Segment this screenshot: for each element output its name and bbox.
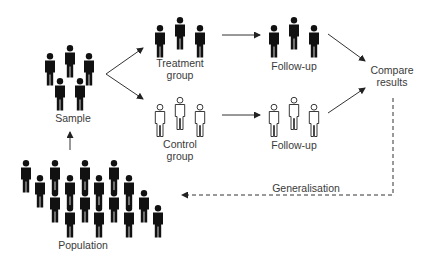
person-icon [309,25,319,58]
person-icon [80,190,90,223]
generalisation-label: Generalisation [272,182,340,194]
followup-treatment-figures [269,17,319,58]
person-icon [75,78,85,111]
person-icon [65,205,75,238]
person-outline-icon [155,104,164,136]
followup-control-figures [269,97,318,136]
treatment-figures [155,17,205,58]
person-outline-icon [289,97,298,129]
person-icon [45,53,55,86]
person-icon [124,205,134,238]
person-icon [35,175,45,208]
person-icon [65,45,75,78]
followup-treatment-label: Follow-up [271,60,317,72]
person-icon [55,78,65,111]
person-icon [50,160,60,193]
control-group-label-line1: Control [163,138,197,150]
person-icon [139,190,149,223]
arrow-followup-treatment-to-compare [328,34,365,61]
person-icon [94,205,104,238]
person-icon [109,160,119,193]
person-outline-icon [269,104,278,136]
control-figures [155,97,204,136]
person-icon [21,160,31,193]
person-outline-icon [175,97,184,129]
arrow-sample-to-control [106,74,143,99]
compare-results-label-line2: results [377,76,408,88]
treatment-group-label-line1: Treatment [156,57,203,69]
person-icon [80,160,90,193]
person-icon [109,190,119,223]
person-icon [50,190,60,223]
arrow-followup-control-to-compare [328,88,365,113]
followup-control-label: Follow-up [271,139,317,151]
compare-results-label-line1: Compare [370,64,413,76]
person-icon [94,175,104,208]
arrow-sample-to-treatment [106,48,143,74]
person-icon [289,17,299,50]
person-icon [84,53,94,86]
person-icon [155,25,165,58]
diagram-graphics [0,0,432,258]
person-icon [124,175,134,208]
person-icon [65,175,75,208]
sample-label: Sample [55,112,91,124]
person-icon [175,17,185,50]
treatment-group-label-line2: group [167,69,194,81]
person-icon [195,25,205,58]
person-icon [269,25,279,58]
population-label: Population [58,239,108,251]
sample-figures [45,45,94,111]
population-figures [21,160,163,238]
person-outline-icon [309,104,318,136]
control-group-label-line2: group [167,150,194,162]
person-outline-icon [195,104,204,136]
person-icon [153,205,163,238]
study-design-diagram: Sample Treatment group Control group Fol… [0,0,432,258]
